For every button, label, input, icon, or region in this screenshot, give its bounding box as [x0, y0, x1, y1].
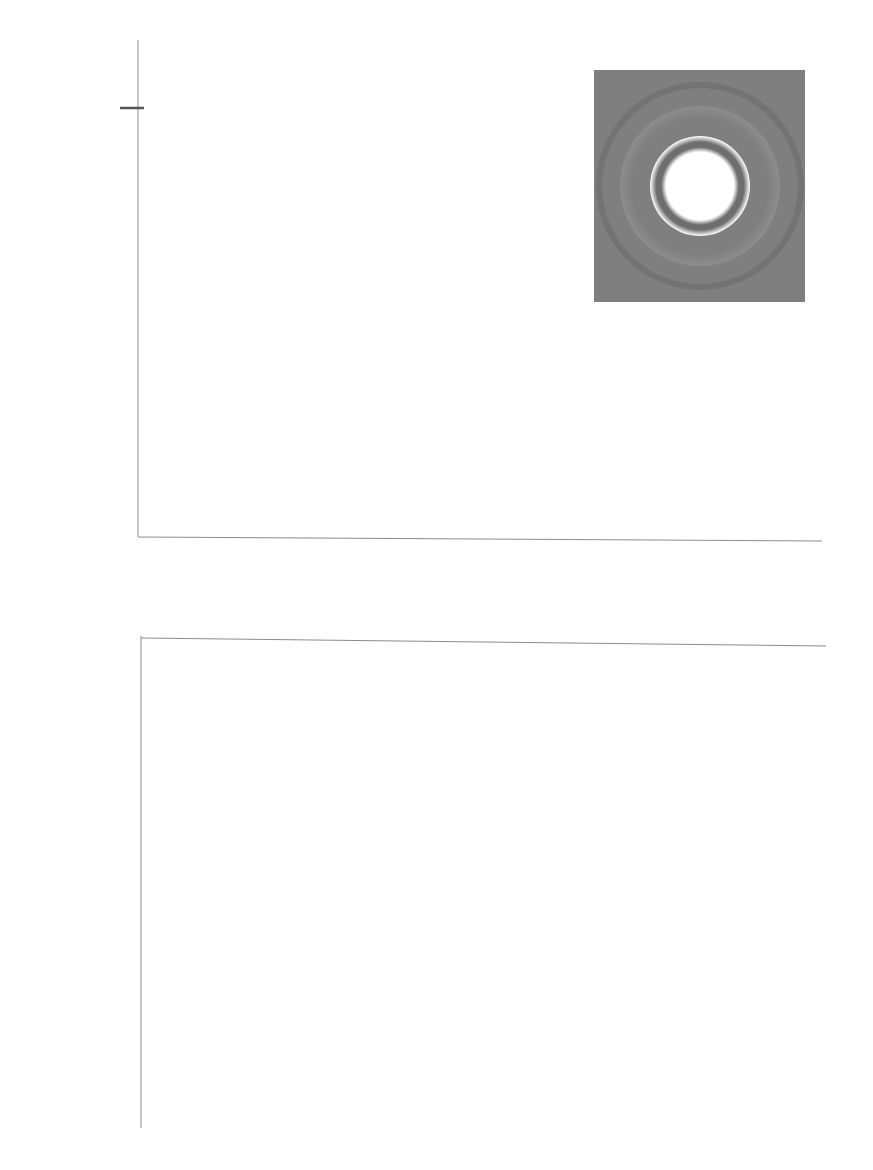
bottom-x-axis: [141, 638, 826, 646]
central-bright-disk: [650, 136, 750, 236]
bottom-panel-intensity-log: [141, 636, 826, 1128]
diffraction-pattern-inset: [594, 70, 805, 302]
top-x-axis: [138, 537, 822, 541]
